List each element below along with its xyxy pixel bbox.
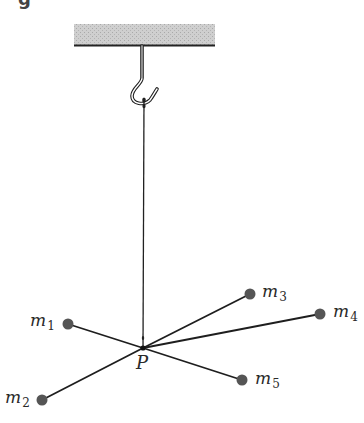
arm-m3 xyxy=(143,294,250,348)
mass-m5 xyxy=(237,375,248,386)
mass-m2 xyxy=(37,395,48,406)
label-m3: m3 xyxy=(262,283,287,303)
arm-m1 xyxy=(68,324,143,348)
hook-icon xyxy=(132,46,157,103)
ceiling xyxy=(74,24,215,46)
diagram-drawing xyxy=(0,0,364,423)
label-m4: m4 xyxy=(333,303,358,323)
mass-m4 xyxy=(315,309,326,320)
label-p: P xyxy=(136,354,148,372)
mass-m3 xyxy=(245,289,256,300)
mass-m1 xyxy=(63,319,74,330)
masses xyxy=(37,289,326,406)
arm-m4 xyxy=(143,314,320,348)
arm-m2 xyxy=(42,348,143,400)
label-m5: m5 xyxy=(255,370,280,390)
arm-m5 xyxy=(143,348,242,380)
junction-point xyxy=(140,345,145,350)
label-m1: m1 xyxy=(30,312,55,332)
label-m2: m2 xyxy=(5,389,30,409)
mobile-diagram: g xyxy=(0,0,364,423)
main-string xyxy=(143,98,144,348)
